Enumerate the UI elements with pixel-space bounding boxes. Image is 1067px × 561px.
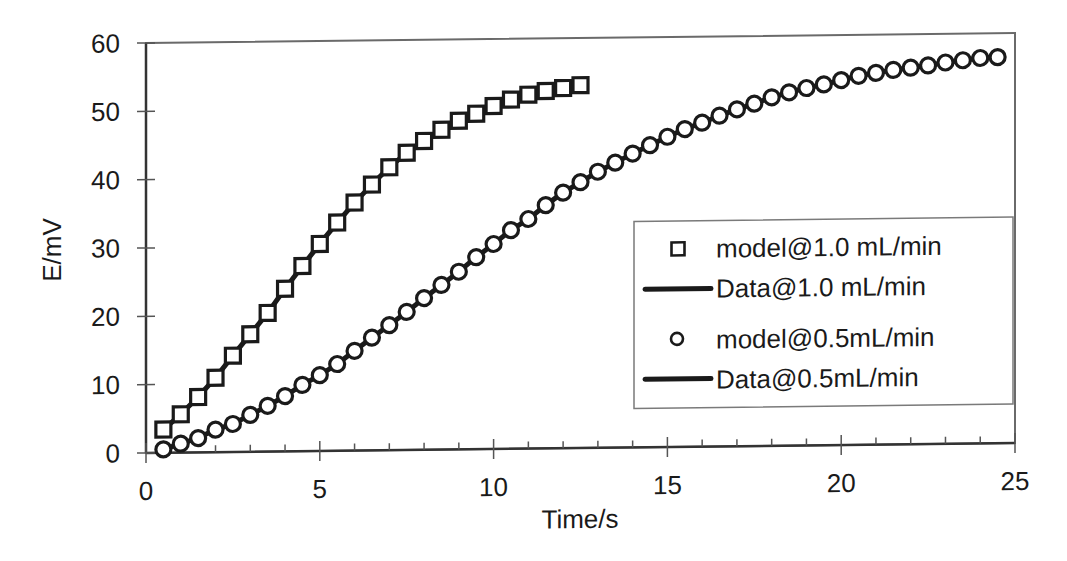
circle-marker-icon — [434, 277, 449, 292]
square-marker-icon — [573, 78, 588, 93]
square-marker-icon — [451, 113, 466, 128]
circle-marker-icon — [921, 58, 936, 73]
circle-marker-icon — [799, 80, 814, 95]
circle-marker-icon — [625, 146, 640, 161]
square-marker-icon — [330, 215, 345, 230]
line-swatch-icon — [645, 288, 711, 289]
circle-marker-icon — [191, 430, 206, 445]
x-tick-label: 25 — [1001, 466, 1030, 496]
x-tick-label: 5 — [313, 474, 327, 504]
square-marker-icon — [364, 177, 379, 192]
series-line-1 — [163, 85, 580, 429]
circle-marker-icon — [260, 398, 275, 413]
circle-marker-icon — [660, 129, 675, 144]
y-axis-title: E/mV — [37, 218, 67, 282]
square-marker-icon — [347, 195, 362, 210]
y-tick-label: 60 — [91, 28, 120, 58]
circle-marker-icon — [729, 102, 744, 117]
square-marker-icon — [260, 305, 275, 320]
circle-marker-icon — [312, 368, 327, 383]
circle-marker-icon — [590, 164, 605, 179]
square-marker-icon — [556, 80, 571, 95]
circle-marker-icon — [868, 65, 883, 80]
square-marker-icon — [469, 106, 484, 121]
legend-label: model@1.0 mL/min — [716, 231, 942, 264]
circle-marker-icon — [695, 115, 710, 130]
circle-marker-icon — [955, 53, 970, 68]
circle-marker-icon — [173, 436, 188, 451]
circle-marker-icon — [938, 55, 953, 70]
y-tick-label: 30 — [91, 233, 120, 263]
square-marker-icon — [295, 258, 310, 273]
circle-marker-icon — [486, 236, 501, 251]
square-marker-icon — [434, 122, 449, 137]
legend: model@1.0 mL/min Data@1.0 mL/min model@0… — [634, 217, 1013, 408]
square-marker-icon — [173, 407, 188, 422]
square-marker-icon — [521, 87, 536, 102]
circle-marker-icon — [990, 50, 1005, 65]
circle-marker-icon — [886, 62, 901, 77]
circle-marker-icon — [677, 121, 692, 136]
circle-marker-icon — [399, 304, 414, 319]
square-marker-icon — [156, 422, 171, 437]
circle-marker-icon — [782, 85, 797, 100]
y-tick-label: 10 — [91, 370, 120, 400]
square-marker-icon — [278, 281, 293, 296]
square-marker-icon — [399, 145, 414, 160]
circle-marker-icon — [764, 90, 779, 105]
circle-marker-icon — [747, 96, 762, 111]
circle-marker-icon — [225, 416, 240, 431]
x-tick-label: 15 — [653, 470, 682, 500]
x-tick-label: 10 — [479, 472, 508, 502]
circle-marker-icon — [521, 211, 536, 226]
square-marker-icon — [312, 236, 327, 251]
y-tick-label: 40 — [91, 165, 120, 195]
circle-marker-icon — [556, 185, 571, 200]
series-squares — [156, 78, 588, 438]
circle-marker-icon — [834, 73, 849, 88]
square-marker-icon — [243, 327, 258, 342]
y-tick-label: 20 — [91, 302, 120, 332]
x-tick-label: 0 — [139, 476, 153, 506]
x-axis-tick-labels: 0510152025 — [139, 466, 1030, 506]
line-swatch-icon — [645, 378, 711, 379]
circle-marker-icon — [364, 330, 379, 345]
circle-marker-icon — [156, 442, 171, 457]
circle-marker-icon — [278, 388, 293, 403]
square-marker-icon — [208, 370, 223, 385]
square-marker-icon — [417, 133, 432, 148]
circle-marker-icon — [208, 422, 223, 437]
square-marker-icon — [503, 92, 518, 107]
circle-marker-icon — [538, 198, 553, 213]
circle-marker-icon — [643, 138, 658, 153]
x-axis-line — [146, 443, 1015, 453]
circle-marker-icon — [295, 377, 310, 392]
y-tick-label: 50 — [91, 97, 120, 127]
circle-marker-icon — [347, 343, 362, 358]
y-tick-label: 0 — [106, 438, 120, 468]
circle-marker-icon — [608, 155, 623, 170]
circle-marker-icon — [503, 223, 518, 238]
circle-marker-icon — [417, 291, 432, 306]
x-axis-title: Time/s — [541, 504, 618, 535]
legend-label: Data@0.5mL/min — [716, 362, 919, 394]
circle-marker-icon — [573, 175, 588, 190]
legend-label: Data@1.0 mL/min — [716, 271, 926, 303]
circle-marker-icon — [671, 333, 683, 345]
circle-marker-icon — [469, 250, 484, 265]
circle-marker-icon — [851, 68, 866, 83]
x-tick-label: 20 — [827, 468, 856, 498]
legend-label: model@0.5mL/min — [716, 322, 935, 355]
chart-body: 0102030405060 0510152025 Time/s model@1.… — [91, 18, 1029, 540]
y-axis-tick-labels: 0102030405060 — [91, 28, 120, 468]
square-marker-icon — [191, 389, 206, 404]
chart: 0102030405060 0510152025 Time/s model@1.… — [0, 0, 1067, 561]
square-marker-icon — [538, 83, 553, 98]
square-marker-icon — [672, 242, 685, 255]
circle-marker-icon — [243, 407, 258, 422]
circle-marker-icon — [451, 264, 466, 279]
circle-marker-icon — [330, 356, 345, 371]
square-marker-icon — [382, 160, 397, 175]
circle-marker-icon — [903, 60, 918, 75]
square-marker-icon — [225, 348, 240, 363]
